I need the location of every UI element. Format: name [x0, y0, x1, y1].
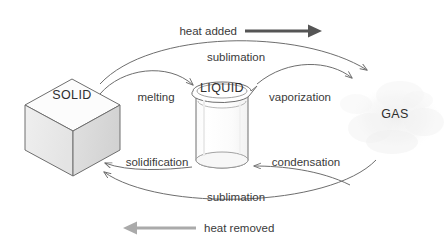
liquid-label: LIQUID	[200, 81, 244, 95]
heat-removed-label: heat removed	[204, 222, 274, 234]
condensation-label: condensation	[272, 156, 340, 168]
heat-added-arrow-icon	[245, 25, 322, 38]
solid-label: SOLID	[52, 88, 92, 102]
phase-change-diagram: SOLID LIQUID GAS	[0, 0, 444, 247]
phase-diagram-canvas: SOLID LIQUID GAS	[0, 0, 444, 247]
heat-added-label: heat added	[179, 25, 237, 37]
solidification-label: solidification	[126, 156, 189, 168]
sublimation-bottom-label: sublimation	[207, 191, 265, 203]
melting-label: melting	[137, 91, 174, 103]
gas-label: GAS	[381, 107, 409, 121]
sublimation-top-label: sublimation	[207, 51, 265, 63]
condensation-arrow	[254, 166, 350, 185]
heat-removed-arrow-icon	[123, 222, 196, 235]
vaporization-label: vaporization	[269, 91, 331, 103]
vaporization-arrow	[257, 64, 352, 84]
